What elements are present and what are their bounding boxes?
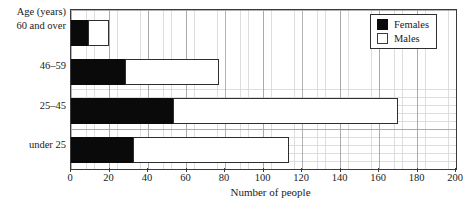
x-tick-label: 200 bbox=[435, 172, 471, 184]
y-tick-label-under-25: under 25 bbox=[0, 139, 66, 150]
bar-segment-males bbox=[88, 20, 109, 46]
open-square-icon bbox=[377, 33, 388, 44]
bar-segment-females bbox=[71, 137, 133, 163]
legend-label-males: Males bbox=[394, 33, 420, 44]
x-tick-label: 80 bbox=[204, 172, 244, 184]
x-tick-label: 140 bbox=[320, 172, 360, 184]
legend-item-males: Males bbox=[377, 33, 429, 44]
x-tick-label: 0 bbox=[50, 172, 90, 184]
x-tick-label: 20 bbox=[89, 172, 129, 184]
stacked-bar-chart: Age (years) 60 and over 46–59 25–45 unde… bbox=[0, 0, 471, 208]
x-tick-label: 120 bbox=[281, 172, 321, 184]
bar-segment-females bbox=[71, 59, 125, 85]
y-tick-label-60-and-over: 60 and over bbox=[0, 20, 66, 31]
y-axis-title: Age (years) bbox=[0, 6, 66, 17]
x-axis-title: Number of people bbox=[0, 186, 471, 198]
bar-segment-females bbox=[71, 20, 88, 46]
y-tick-label-46-59: 46–59 bbox=[0, 60, 66, 71]
bar-segment-males bbox=[173, 98, 398, 124]
legend-item-females: Females bbox=[377, 19, 429, 30]
x-tick-label: 180 bbox=[397, 172, 437, 184]
filled-square-icon bbox=[377, 19, 388, 30]
bar-segment-females bbox=[71, 98, 173, 124]
legend: Females Males bbox=[370, 14, 437, 49]
x-tick-label: 40 bbox=[127, 172, 167, 184]
legend-label-females: Females bbox=[394, 19, 429, 30]
bar-segment-males bbox=[133, 137, 289, 163]
x-tick-label: 100 bbox=[243, 172, 283, 184]
x-tick-label: 160 bbox=[358, 172, 398, 184]
x-tick-label: 60 bbox=[166, 172, 206, 184]
bar-segment-males bbox=[125, 59, 219, 85]
y-tick-label-25-45: 25–45 bbox=[0, 100, 66, 111]
